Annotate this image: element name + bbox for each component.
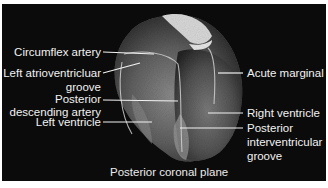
label-text: Acute marginal xyxy=(247,67,324,79)
label-text: Posterior xyxy=(247,121,322,135)
label-text: Left atrioventricluar xyxy=(3,66,101,80)
label-text: interventricular xyxy=(247,135,322,149)
anatomy-figure-panel: Circumflex artery Left atrioventricluar … xyxy=(2,4,326,181)
label-text: Right ventricle xyxy=(247,107,320,119)
label-circumflex-artery: Circumflex artery xyxy=(14,46,101,59)
figure-caption: Posterior coronal plane xyxy=(110,166,228,178)
heart-shape xyxy=(115,14,243,161)
label-posterior-interventricular-groove: Posterior interventricular groove xyxy=(247,121,322,163)
label-text: Circumflex artery xyxy=(14,46,101,58)
label-acute-marginal: Acute marginal xyxy=(247,67,324,80)
label-right-ventricle: Right ventricle xyxy=(247,107,320,120)
label-text: Posterior xyxy=(10,93,101,106)
label-text: Left ventricle xyxy=(36,116,101,128)
label-left-ventricle: Left ventricle xyxy=(36,116,101,129)
label-text: groove xyxy=(247,149,322,163)
label-left-atrioventricular-groove: Left atrioventricluar groove xyxy=(3,66,101,94)
label-text: groove xyxy=(3,80,101,94)
